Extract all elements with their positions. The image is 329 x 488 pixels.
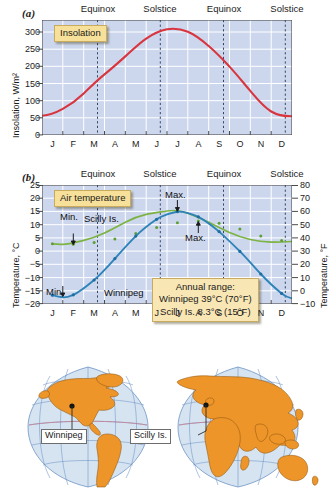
- panel-b-ytick-f-70: 70: [300, 193, 324, 203]
- panel-b-marker-equinox-2: Equinox: [207, 168, 241, 179]
- panel-b-xtick-J3: J: [175, 308, 180, 318]
- annual-range-winnipeg: Winnipeg 39°C (70°F): [159, 293, 252, 305]
- panel-b-marker-solstice-1: Solstice: [143, 168, 176, 179]
- panel-b-series-label-air-temperature: Air temperature: [54, 190, 131, 207]
- panel-b-xtick-A2: A: [195, 308, 201, 318]
- panel-b-ytick-f-m10: −10: [300, 299, 326, 309]
- panel-b-yaxis-ticks-left: [36, 185, 43, 305]
- panel-a-insolation: (a) Equinox Solstice Equinox Solstice In…: [0, 0, 327, 168]
- panel-b-air-temperature: (b) Equinox Solstice Equinox Solstice Te…: [0, 168, 327, 348]
- panel-b-yaxis-ticks-right: [292, 185, 299, 305]
- panel-a-xtick-M1: M: [90, 139, 98, 149]
- annual-range-title: Annual range:: [159, 281, 252, 293]
- panel-a-xtick-N: N: [258, 139, 265, 149]
- panel-a-xtick-A1: A: [112, 139, 118, 149]
- panel-b-xtick-A1: A: [112, 308, 118, 318]
- panel-a-xtick-D: D: [279, 139, 286, 149]
- panel-b-xtick-O: O: [237, 308, 244, 318]
- panel-a-xtick-J3: J: [175, 139, 180, 149]
- panel-b-xtick-S: S: [216, 308, 222, 318]
- panel-a-series-label-insolation: Insolation: [54, 25, 107, 42]
- panel-b-xtick-D: D: [279, 308, 286, 318]
- panel-a-xtick-A2: A: [195, 139, 201, 149]
- panel-b-ytick-f-50: 50: [300, 220, 324, 230]
- panel-a-marker-solstice-2: Solstice: [270, 3, 303, 14]
- panel-a-xtick-J1: J: [50, 139, 55, 149]
- panel-a-xtick-J2: J: [154, 139, 159, 149]
- panel-b-xtick-M2: M: [132, 308, 140, 318]
- panel-b-ytick-f-20: 20: [300, 259, 324, 269]
- panel-b-ytick-f-40: 40: [300, 233, 324, 243]
- panel-b-annotation-min-scilly: Min.: [60, 211, 78, 222]
- panel-b-annotation-label-scilly: Scilly Is.: [84, 213, 119, 224]
- panel-b-ytick-f-10: 10: [300, 273, 324, 283]
- map-label-scilly: Scilly Is.: [130, 429, 171, 444]
- panel-b-ytick-f-30: 30: [300, 246, 324, 256]
- panel-b-xtick-M1: M: [90, 308, 98, 318]
- panel-a-yaxis-ticks: [36, 20, 43, 136]
- panel-b-ytick-f-0: 0: [300, 286, 324, 296]
- panel-a-xtick-O: O: [237, 139, 244, 149]
- panel-b-xtick-F: F: [71, 308, 77, 318]
- panel-a-xtick-S: S: [216, 139, 222, 149]
- world-map-svg: [10, 365, 320, 488]
- panel-b-annotation-min-winnipeg: Min.: [46, 286, 64, 297]
- panel-a-marker-solstice-1: Solstice: [143, 3, 176, 14]
- panel-b-annotation-label-winnipeg: Winnipeg: [104, 287, 144, 298]
- world-map-locator: Winnipeg Scilly Is.: [0, 365, 327, 488]
- panel-b-annotation-max-winnipeg: Max.: [165, 189, 186, 200]
- panel-a-marker-equinox-2: Equinox: [207, 3, 241, 14]
- panel-b-ytick-f-60: 60: [300, 206, 324, 216]
- panel-b-ytick-f-80: 80: [300, 180, 324, 190]
- panel-b-xtick-N: N: [258, 308, 265, 318]
- map-label-winnipeg: Winnipeg: [41, 429, 87, 444]
- panel-b-annotation-max-scilly: Max.: [185, 232, 206, 243]
- panel-a-marker-equinox-1: Equinox: [81, 3, 115, 14]
- panel-b-marker-equinox-1: Equinox: [81, 168, 115, 179]
- panel-b-marker-solstice-2: Solstice: [270, 168, 303, 179]
- panel-a-xtick-M2: M: [132, 139, 140, 149]
- panel-a-letter: (a): [22, 7, 35, 19]
- panel-b-xtick-J2: J: [154, 308, 159, 318]
- panel-a-xtick-F: F: [71, 139, 77, 149]
- panel-b-xtick-J1: J: [50, 308, 55, 318]
